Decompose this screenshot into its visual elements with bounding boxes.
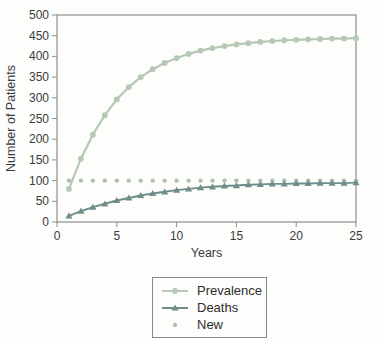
deaths-marker-icon (160, 301, 190, 315)
x-tick-label: 10 (170, 229, 184, 243)
data-point (341, 36, 347, 42)
y-tick-label: 150 (29, 153, 49, 167)
series-line (69, 38, 356, 189)
y-tick-label: 250 (29, 112, 49, 126)
y-tick-label: 300 (29, 91, 49, 105)
data-point (162, 60, 168, 66)
data-point (222, 43, 228, 49)
data-point (79, 178, 83, 182)
x-tick-label: 15 (230, 229, 244, 243)
x-tick-label: 0 (54, 229, 61, 243)
data-point (317, 36, 323, 42)
y-tick-label: 0 (42, 215, 49, 229)
y-tick-label: 450 (29, 29, 49, 43)
data-point (234, 178, 238, 182)
legend-label-deaths: Deaths (197, 301, 238, 315)
data-point (172, 288, 178, 294)
data-point (281, 37, 287, 43)
data-point (115, 178, 119, 182)
legend-item-new: New (160, 316, 262, 333)
y-axis-title: Number of Patients (4, 65, 18, 172)
data-point (210, 45, 216, 51)
plot-area: 0501001502002503003504004505000510152025 (29, 8, 363, 243)
legend: Prevalence Deaths New (152, 277, 267, 338)
data-point (162, 178, 166, 182)
legend-swatch-canvas (160, 318, 190, 332)
x-axis-title: Years (191, 246, 223, 260)
data-point (127, 178, 131, 182)
y-tick-label: 100 (29, 174, 49, 188)
legend-swatch-canvas (160, 284, 190, 298)
data-point (174, 178, 178, 182)
data-point (150, 178, 154, 182)
data-point (210, 178, 214, 182)
data-point (66, 186, 72, 192)
data-point (139, 178, 143, 182)
x-tick-label: 25 (349, 229, 363, 243)
data-point (305, 37, 311, 43)
chart-canvas: Number of Patients Years 050100150200250… (0, 0, 377, 270)
data-point (353, 35, 359, 41)
y-tick-label: 50 (36, 194, 50, 208)
legend-item-prevalence: Prevalence (160, 282, 262, 299)
data-point (234, 41, 240, 47)
data-point (173, 322, 177, 326)
data-point (198, 178, 202, 182)
data-point (222, 178, 226, 182)
data-point (186, 51, 192, 57)
patient-growth-chart: Number of Patients Years 050100150200250… (0, 0, 377, 341)
data-point (293, 37, 299, 43)
legend-swatch-canvas (160, 301, 190, 315)
new-marker-icon (160, 318, 190, 332)
prevalence-marker-icon (160, 284, 190, 298)
data-point (198, 48, 204, 54)
series-new (67, 178, 358, 182)
data-point (269, 38, 275, 44)
series-deaths (65, 179, 359, 218)
data-point (329, 36, 335, 42)
data-point (91, 178, 95, 182)
data-point (67, 178, 71, 182)
legend-item-deaths: Deaths (160, 299, 262, 316)
data-point (114, 97, 120, 103)
y-tick-label: 500 (29, 8, 49, 22)
y-tick-label: 400 (29, 49, 49, 63)
data-point (102, 112, 108, 118)
data-point (138, 74, 144, 80)
legend-label-prevalence: Prevalence (197, 284, 262, 298)
data-point (186, 178, 190, 182)
data-point (174, 55, 180, 61)
data-point (245, 40, 251, 46)
data-point (78, 156, 84, 162)
data-point (126, 84, 132, 90)
x-tick-label: 20 (290, 229, 304, 243)
legend-label-new: New (197, 318, 223, 332)
series-prevalence (66, 35, 359, 191)
data-point (150, 66, 156, 72)
data-point (257, 39, 263, 45)
data-point (103, 178, 107, 182)
y-tick-label: 350 (29, 70, 49, 84)
x-tick-label: 5 (113, 229, 120, 243)
y-tick-label: 200 (29, 132, 49, 146)
data-point (90, 132, 96, 138)
